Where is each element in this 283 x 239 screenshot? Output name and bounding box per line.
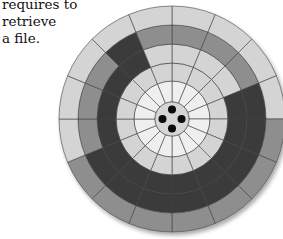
spindle-hole-icon xyxy=(178,115,186,123)
spindle-hole-icon xyxy=(168,125,176,133)
platter xyxy=(59,6,283,232)
disk-platter-diagram xyxy=(0,0,283,239)
spindle-hole-icon xyxy=(159,115,167,123)
spindle-hole-icon xyxy=(168,106,176,114)
